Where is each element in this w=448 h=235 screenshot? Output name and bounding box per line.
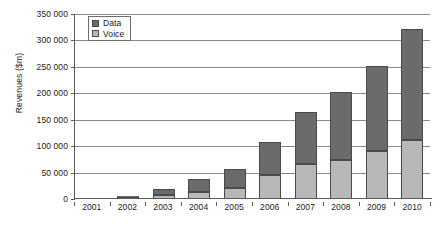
x-axis-tick	[288, 202, 289, 206]
y-axis-tick-label: 50 000	[41, 168, 68, 178]
bar-segment-data	[295, 112, 317, 164]
bar-segment-data	[366, 66, 388, 152]
bar-group	[182, 14, 218, 199]
x-axis-tick	[430, 202, 431, 206]
x-axis-tick	[323, 202, 324, 206]
chart-legend: Data Voice	[88, 16, 131, 41]
y-axis-tick-label: 350 000	[37, 9, 68, 19]
y-axis-tick-label: 200 000	[37, 88, 68, 98]
x-axis-labels: 2001200220032004200520062007200820092010	[74, 202, 430, 212]
x-axis-tick	[181, 202, 182, 206]
legend-label-voice: Voice	[103, 30, 124, 39]
bar-group	[359, 14, 395, 199]
bar-segment-voice	[330, 160, 352, 199]
x-axis-tick-label: 2006	[252, 202, 288, 212]
bar-segment-data	[259, 142, 281, 175]
stacked-bar	[366, 66, 388, 199]
bar-group	[395, 14, 431, 199]
bar-segment-data	[401, 29, 423, 141]
bar-segment-voice	[295, 164, 317, 199]
bar-group	[288, 14, 324, 199]
x-axis-tick	[110, 202, 111, 206]
bar-segment-voice	[401, 140, 423, 199]
x-axis-tick-label: 2009	[359, 202, 395, 212]
bar-segment-data	[330, 92, 352, 160]
x-axis-tick-label: 2001	[74, 202, 110, 212]
stacked-bar	[330, 92, 352, 199]
y-axis-tick-label: 100 000	[37, 141, 68, 151]
x-axis-tick	[216, 202, 217, 206]
bar-group	[111, 14, 147, 199]
y-axis-tick-label: 250 000	[37, 62, 68, 72]
bar-group	[253, 14, 289, 199]
bar-group	[217, 14, 253, 199]
bar-group	[75, 14, 111, 199]
x-axis-tick-label: 2010	[394, 202, 430, 212]
bar-segment-data	[188, 179, 210, 192]
y-axis-tick	[71, 199, 75, 200]
y-axis-tick-label: 300 000	[37, 35, 68, 45]
x-axis-tick-label: 2005	[216, 202, 252, 212]
x-axis-tick-label: 2002	[110, 202, 146, 212]
x-axis-line	[74, 198, 432, 199]
bar-segment-voice	[259, 175, 281, 199]
x-axis-tick	[145, 202, 146, 206]
y-axis-title: Revenues ($m)	[14, 28, 24, 138]
bars-layer	[75, 14, 430, 199]
plot-area: 050 000100 000150 000200 000250 000300 0…	[74, 14, 430, 199]
stacked-bar	[188, 179, 210, 199]
y-axis-tick-label: 0	[63, 194, 68, 204]
x-axis-tick	[359, 202, 360, 206]
y-axis-tick-label: 150 000	[37, 115, 68, 125]
x-axis-tick-label: 2003	[145, 202, 181, 212]
x-axis-tick-label: 2008	[323, 202, 359, 212]
revenue-stacked-bar-chart: Revenues ($m) 050 000100 000150 000200 0…	[0, 0, 448, 235]
x-axis-tick	[394, 202, 395, 206]
legend-label-data: Data	[103, 19, 121, 28]
x-axis-tick-label: 2004	[181, 202, 217, 212]
legend-swatch-voice	[92, 30, 99, 37]
bar-segment-data	[224, 169, 246, 188]
stacked-bar	[401, 29, 423, 199]
x-axis-tick	[252, 202, 253, 206]
x-axis-tick-label: 2007	[288, 202, 324, 212]
x-axis-tick	[74, 202, 75, 206]
legend-swatch-data	[92, 20, 99, 27]
stacked-bar	[224, 169, 246, 199]
bar-group	[324, 14, 360, 199]
bar-group	[146, 14, 182, 199]
legend-item-voice: Voice	[92, 30, 124, 39]
stacked-bar	[295, 112, 317, 199]
legend-item-data: Data	[92, 19, 124, 28]
bar-segment-voice	[366, 151, 388, 199]
stacked-bar	[259, 142, 281, 199]
